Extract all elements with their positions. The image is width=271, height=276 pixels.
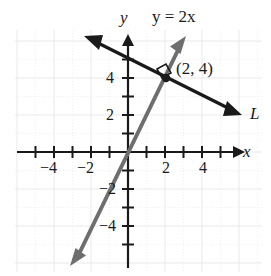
- x-tick-label-2: 2: [162, 160, 170, 176]
- point-2-4-marker: [162, 74, 170, 82]
- y-axis-label: y: [120, 9, 128, 26]
- y-tick-label-4: 4: [106, 70, 114, 86]
- y-tick-label--4: −4: [99, 218, 116, 234]
- coordinate-plane-svg: [0, 0, 271, 276]
- x-tick-label--2: −2: [77, 160, 94, 176]
- line-equation-label: y = 2x: [152, 8, 196, 25]
- graph-figure: y x y = 2x (2, 4) L −4 −2 2 4 4 2 −2 −4: [0, 0, 271, 276]
- x-axis-label: x: [243, 143, 251, 160]
- y-tick-label--2: −2: [99, 181, 116, 197]
- x-tick-label--4: −4: [40, 160, 57, 176]
- point-coordinate-label: (2, 4): [176, 60, 213, 77]
- line-L-label: L: [250, 105, 259, 122]
- x-tick-label-4: 4: [199, 160, 207, 176]
- y-tick-label-2: 2: [106, 107, 114, 123]
